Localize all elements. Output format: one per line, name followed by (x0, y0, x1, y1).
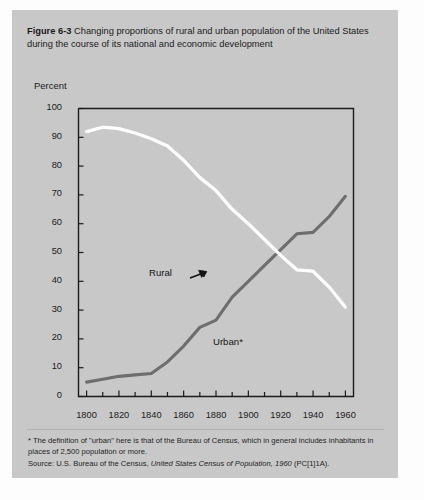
axis-frame (79, 109, 354, 397)
x-tick-label: 1860 (167, 410, 201, 420)
x-tick-label: 1840 (134, 410, 168, 420)
x-tick-label: 1800 (70, 410, 104, 420)
x-axis-ticks (87, 391, 346, 397)
figure-number: Figure 6-3 (27, 26, 71, 36)
y-tick-label: 40 (38, 275, 62, 285)
urban-series-label: Urban* (213, 336, 243, 347)
source-title: United States Census of Population, 1960 (151, 459, 292, 468)
y-tick-label: 90 (38, 131, 62, 141)
source-suffix: (PC[1]1A). (292, 459, 330, 468)
x-tick-label: 1880 (199, 410, 233, 420)
y-tick-label: 70 (38, 188, 62, 198)
y-tick-label: 20 (38, 332, 62, 342)
figure-card: Figure 6-3 Changing proportions of rural… (12, 10, 398, 478)
source-prefix: Source: U.S. Bureau of the Census, (28, 459, 151, 468)
y-tick-label: 30 (38, 304, 62, 314)
y-tick-label: 50 (38, 246, 62, 256)
y-axis-ticks (79, 109, 84, 397)
urban-line (87, 196, 346, 382)
figure-notes: * The definition of "urban" here is that… (28, 435, 386, 469)
y-tick-label: 10 (38, 361, 62, 371)
y-tick-label: 80 (38, 160, 62, 170)
figure-caption-text: Changing proportions of rural and urban … (27, 26, 369, 49)
footnote-text: * The definition of "urban" here is that… (28, 435, 386, 458)
x-tick-label: 1960 (329, 410, 363, 420)
notes-divider (27, 429, 384, 430)
source-line: Source: U.S. Bureau of the Census, Unite… (28, 458, 386, 469)
chart-svg (66, 96, 366, 418)
x-tick-label: 1940 (296, 410, 330, 420)
y-tick-label: 100 (38, 102, 62, 112)
y-axis-title: Percent (34, 80, 67, 91)
chart-plot-area: 0 10 20 30 40 50 60 70 80 90 100 1800 18… (66, 96, 366, 418)
x-tick-label: 1900 (231, 410, 265, 420)
y-tick-label: 0 (38, 390, 62, 400)
x-tick-label: 1920 (264, 410, 298, 420)
figure-caption: Figure 6-3 Changing proportions of rural… (27, 25, 383, 51)
y-tick-label: 60 (38, 217, 62, 227)
rural-series-label: Rural (149, 267, 172, 278)
rural-line (87, 127, 346, 307)
x-tick-label: 1820 (102, 410, 136, 420)
